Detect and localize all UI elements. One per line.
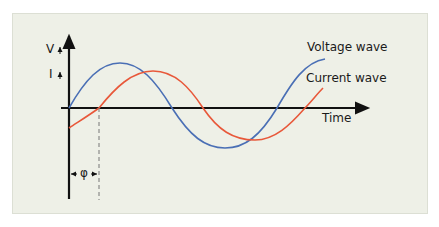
- phase-label: φ: [80, 166, 88, 180]
- current-wave-label: Current wave: [306, 71, 387, 85]
- time-axis-label: Time: [322, 111, 351, 125]
- waveform-diagram: [0, 0, 439, 227]
- voltage-wave-label: Voltage wave: [307, 40, 387, 54]
- v-axis-label: V: [46, 42, 54, 56]
- current-wave: [69, 71, 323, 140]
- i-axis-label: I: [49, 67, 53, 81]
- voltage-wave: [69, 59, 325, 148]
